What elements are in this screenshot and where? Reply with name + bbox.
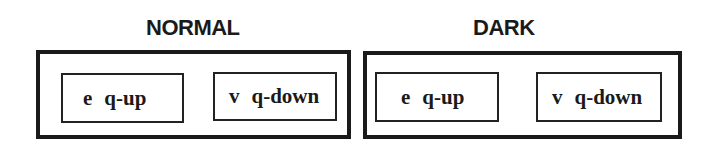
normal-q-up-key[interactable]: e q-up (61, 73, 184, 123)
normal-q-down-key[interactable]: v q-down (213, 72, 337, 121)
q-up-label: q-up (104, 86, 146, 111)
e-key-glyph-icon: e (401, 85, 410, 110)
dark-q-up-key[interactable]: e q-up (375, 72, 499, 122)
dark-q-down-key[interactable]: v q-down (536, 72, 662, 122)
q-down-label: q-down (252, 84, 320, 109)
q-up-label: q-up (422, 85, 464, 110)
e-key-glyph-icon: e (83, 86, 92, 111)
v-key-glyph-icon: v (229, 84, 240, 109)
dark-mode-title: DARK (473, 17, 535, 39)
q-down-label: q-down (575, 85, 643, 110)
normal-mode-title: NORMAL (146, 17, 240, 39)
v-key-glyph-icon: v (552, 85, 563, 110)
